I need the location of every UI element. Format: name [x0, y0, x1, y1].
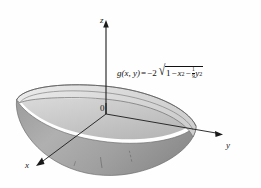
- z-axis-label: z: [100, 16, 104, 25]
- formula-minus-two: −: [184, 69, 191, 78]
- radical-sign-icon: √: [158, 66, 165, 80]
- surface-plot-figure: z y x 0 g(x, y) = −2 √ 1 − x2 − 1 9 y2: [0, 0, 261, 188]
- z-axis-arrowhead: [103, 20, 109, 28]
- y-axis-label: y: [226, 141, 230, 150]
- formula-arguments: (x, y): [122, 69, 140, 78]
- function-formula-annotation: g(x, y) = −2 √ 1 − x2 − 1 9 y2: [117, 66, 203, 80]
- y-axis-arrowhead: [215, 131, 223, 137]
- formula-fraction: 1 9: [192, 67, 195, 80]
- fraction-denominator: 9: [192, 73, 195, 80]
- x-axis-label: x: [25, 161, 29, 170]
- x-axis-arrowhead: [36, 158, 45, 167]
- origin-label: 0: [100, 104, 105, 113]
- formula-radical: √ 1 − x2 − 1 9 y2: [158, 66, 204, 80]
- formula-radicand: 1 − x2 − 1 9 y2: [165, 66, 203, 80]
- formula-coefficient: −2: [147, 69, 157, 78]
- figure-canvas: [0, 0, 261, 188]
- formula-equals: =: [140, 69, 147, 78]
